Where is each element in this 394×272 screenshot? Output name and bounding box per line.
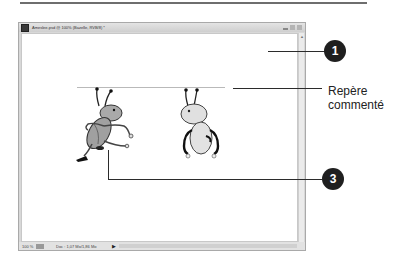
document-canvas[interactable] [21, 33, 298, 242]
leader-line-3-vertical [108, 150, 109, 180]
minimize-button[interactable] [283, 28, 288, 30]
leader-line-1 [268, 51, 325, 52]
vertical-scrollbar[interactable]: ▲ [298, 33, 304, 242]
window-title: Ameslee.psd @ 100% (Bazelle, RVB/8) * [32, 25, 105, 30]
callout-badge-1: 1 [324, 40, 346, 62]
close-button[interactable] [297, 25, 302, 30]
photoshop-app-icon [21, 24, 29, 32]
guide-label-line-1: Repère [328, 84, 384, 98]
zoom-level[interactable]: 100 % [22, 244, 34, 249]
guide-label-line-2: commenté [328, 98, 384, 112]
horizontal-scrollbar[interactable] [119, 244, 297, 248]
callout-badge-3: 3 [322, 168, 344, 190]
leader-line-3-horizontal [108, 179, 322, 180]
status-bar: 100 % Doc : 1,07 Mo/1,86 Mo ▶ [19, 242, 305, 250]
window-controls [283, 25, 302, 30]
leader-line-guide [233, 88, 322, 89]
top-page-rule [20, 2, 367, 4]
scroll-up-arrow-icon[interactable]: ▲ [300, 35, 304, 39]
status-preview-icon [36, 244, 44, 249]
status-menu-arrow-icon[interactable]: ▶ [112, 243, 116, 249]
standing-ant-illustration [176, 86, 236, 166]
window-titlebar[interactable]: Ameslee.psd @ 100% (Bazelle, RVB/8) * [19, 23, 305, 32]
document-size-info: Doc : 1,07 Mo/1,86 Mo [56, 244, 106, 249]
maximize-button[interactable] [290, 25, 295, 30]
running-ant-illustration [74, 86, 150, 166]
guide-annotation-label: Repère commenté [328, 84, 384, 112]
document-window[interactable]: Ameslee.psd @ 100% (Bazelle, RVB/8) * ▲ … [18, 22, 306, 251]
